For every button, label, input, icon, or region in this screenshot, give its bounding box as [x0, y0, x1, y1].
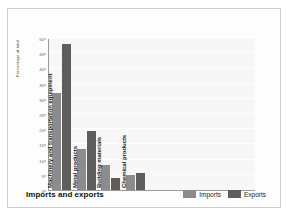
legend-item-imports[interactable]: Imports [183, 190, 221, 198]
y-axis-tick-mark [44, 99, 46, 100]
bar-group: Building materials [101, 39, 120, 190]
gridline [49, 37, 255, 38]
chart-footer: Imports and exports Imports Exports [26, 183, 266, 199]
chart-figure: Percentage of total 05101520253035404550… [0, 0, 288, 216]
bar-exports[interactable] [62, 44, 71, 190]
plot-area-wrapper: Percentage of total 05101520253035404550… [34, 39, 255, 191]
y-axis-tick-mark [44, 69, 46, 70]
category-label: Chemical products [121, 135, 127, 188]
y-axis-tick-mark [44, 145, 46, 146]
bars-container: Machinery and transportation equipmentMe… [49, 39, 255, 190]
bar-group: Chemical products [126, 39, 145, 190]
legend-label-imports: Imports [199, 191, 221, 198]
bar-exports[interactable] [87, 131, 96, 190]
legend-swatch-imports [183, 190, 196, 198]
category-label: Building materials [96, 137, 102, 188]
bar-imports[interactable] [52, 93, 61, 190]
y-axis-title: Percentage of total [15, 0, 20, 77]
chart-card: Percentage of total 05101520253035404550… [7, 8, 281, 208]
y-axis-tick-mark [44, 175, 46, 176]
legend-item-exports[interactable]: Exports [228, 190, 266, 198]
legend-swatch-exports [228, 190, 241, 198]
category-label: Metal products [72, 146, 78, 188]
y-axis-tick-mark [44, 39, 46, 40]
legend-label-exports: Exports [244, 191, 266, 198]
y-axis-tick-mark [44, 54, 46, 55]
bar-group: Metal products [77, 39, 96, 190]
y-axis-tick-mark [44, 160, 46, 161]
bar-group: Machinery and transportation equipment [52, 39, 71, 190]
y-axis-tick-mark [44, 130, 46, 131]
chart-legend: Imports Exports [183, 190, 266, 198]
chart-title: Imports and exports [26, 190, 104, 199]
y-axis-ticks: 05101520253035404550 [34, 39, 46, 191]
plot-area: Machinery and transportation equipmentMe… [48, 39, 255, 191]
category-label: Machinery and transportation equipment [47, 74, 53, 188]
y-axis-tick-mark [44, 84, 46, 85]
y-axis-tick-mark [44, 115, 46, 116]
